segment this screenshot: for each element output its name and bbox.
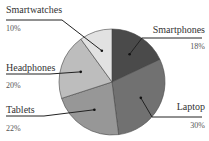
leader-dot-icon: [128, 53, 131, 56]
label-tablets: Tablets: [6, 104, 35, 115]
pct-smartwatches: 10%: [6, 24, 21, 33]
pct-headphones: 20%: [6, 81, 21, 90]
label-laptop: Laptop: [177, 101, 205, 112]
pct-smartphones: 18%: [190, 42, 205, 51]
leader-dot-icon: [93, 108, 96, 111]
pct-tablets: 22%: [6, 124, 21, 133]
leader-dot-icon: [79, 71, 82, 74]
label-headphones: Headphones: [6, 62, 55, 73]
leader-dot-icon: [139, 97, 142, 100]
label-smartwatches: Smartwatches: [6, 4, 62, 15]
pct-laptop: 30%: [190, 121, 205, 130]
pie-slices: [59, 29, 165, 135]
label-smartphones: Smartphones: [153, 24, 205, 35]
leader-dot-icon: [101, 49, 104, 52]
